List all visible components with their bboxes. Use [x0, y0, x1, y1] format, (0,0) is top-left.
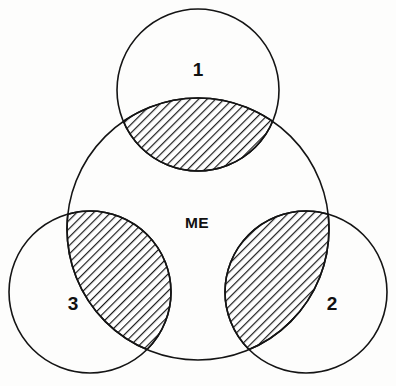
venn-diagram-canvas: 1 2 3 ME: [0, 0, 396, 386]
circle-1-label: 1: [193, 59, 204, 80]
circle-2-label: 2: [327, 293, 338, 314]
circle-3-label: 3: [68, 293, 79, 314]
diagram-background: [0, 0, 396, 386]
circle-me-label: ME: [185, 214, 209, 231]
venn-diagram-svg: 1 2 3 ME: [0, 0, 396, 386]
